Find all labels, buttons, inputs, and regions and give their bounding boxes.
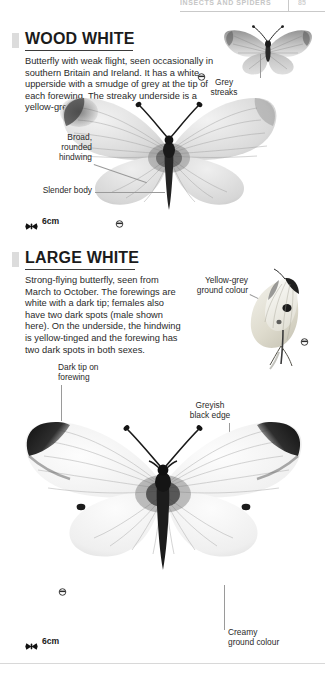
leader-grey-streaks	[260, 54, 261, 78]
butterfly-scale-icon	[25, 637, 38, 646]
section-underline	[25, 269, 135, 270]
specimen-large-white-underside	[243, 268, 325, 370]
scale-value: 6cm	[42, 636, 59, 646]
section-title: WOOD WHITE	[25, 30, 135, 48]
sex-symbol-male-wood-white-underside	[197, 67, 206, 76]
page-number: 85	[298, 0, 306, 8]
description-large-white: Strong-flying butterfly, seen from March…	[25, 275, 185, 356]
label-dark-tip-on-forewing: Dark tip on forewing	[58, 363, 138, 383]
leader-slender-body	[95, 192, 165, 193]
label-broad-rounded-hindwing: Broad, rounded hindwing	[24, 133, 92, 162]
running-head: INSECTS AND SPIDERS 85	[180, 0, 325, 12]
scale-value: 6cm	[42, 216, 59, 226]
section-underline	[25, 50, 133, 51]
label-yellow-grey-ground-colour: Yellow-grey ground colour	[180, 276, 248, 296]
running-head-title: INSECTS AND SPIDERS	[180, 0, 271, 8]
sex-symbol-male-large-white-underside	[300, 332, 309, 341]
leader-creamy-ground-colour	[224, 585, 225, 630]
label-slender-body: Slender body	[14, 186, 92, 196]
section-title: LARGE WHITE	[25, 249, 139, 267]
page-bottom-rule	[0, 663, 325, 664]
label-creamy-ground-colour: Creamy ground colour	[228, 628, 308, 648]
specimen-large-white-upperside	[18, 408, 308, 598]
field-guide-page: INSECTS AND SPIDERS 85 WOOD WHITE Butter…	[0, 0, 325, 673]
running-head-divider	[288, 0, 289, 11]
butterfly-scale-icon	[25, 217, 38, 226]
sex-symbol-male-large-white-upperside	[58, 582, 67, 591]
section-accent-tab	[12, 33, 19, 48]
specimen-wood-white-underside	[218, 22, 318, 84]
section-accent-tab	[12, 252, 19, 267]
sex-symbol-male-wood-white-upperside	[115, 214, 124, 223]
